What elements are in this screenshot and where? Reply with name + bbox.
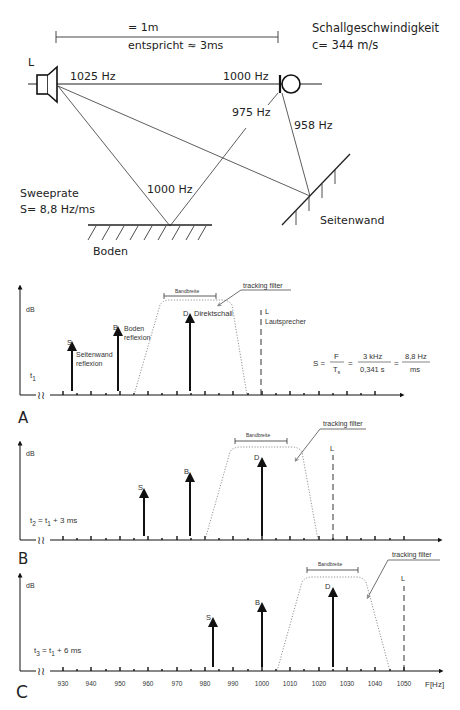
sweep-formula: S = F Ts = 3 kHz 0,341 s = 8,8 Hz ms [313,352,430,375]
svg-text:930: 930 [58,680,69,687]
svg-text:960: 960 [143,680,154,687]
svg-text:=: = [394,359,399,368]
speaker-label: L [28,56,35,69]
svg-text:Lautsprecher: Lautsprecher [265,318,307,326]
microphone-icon [280,75,300,93]
svg-text:950: 950 [115,680,126,687]
svg-text:Ts: Ts [333,365,341,375]
room-diagram: = 1m entspricht ≈ 3ms Schallgeschwindigk… [20,21,440,258]
bandwidth-label: Bandbreite [318,561,342,567]
filter-label: tracking filter [323,420,363,428]
panel-letter: C [16,682,28,702]
distance-sublabel: entspricht ≈ 3ms [128,39,224,52]
svg-text:970: 970 [172,680,183,687]
svg-text:S: S [67,338,72,347]
speed-title: Schallgeschwindigkeit [312,21,440,35]
svg-text:S: S [206,613,211,622]
svg-text:F: F [334,352,339,361]
svg-text:1020: 1020 [312,680,327,687]
speed-value: c= 344 m/s [312,38,378,52]
sweeprate-value: S= 8,8 Hz/ms [20,203,95,216]
y-axis-label: dB [26,450,35,457]
spectrum-panel-b: dB ≀≀ B t2 = t1 + 3 ms Bandbreite [18,420,440,568]
speaker-icon [37,67,57,102]
svg-text:8,8 Hz: 8,8 Hz [405,352,427,361]
y-axis-label: dB [26,582,35,589]
svg-text:ms: ms [410,365,420,374]
x-axis-ticks [63,667,404,671]
spectrum-panel-a: dB ≀≀ A t1 Bandbreite tracking fil [18,282,430,427]
svg-text:1000: 1000 [255,680,270,687]
svg-text:3 kHz: 3 kHz [363,352,382,361]
svg-text:reflexion: reflexion [124,334,151,341]
diagram-svg: = 1m entspricht ≈ 3ms Schallgeschwindigk… [0,0,460,710]
svg-text:D: D [254,453,260,462]
svg-text:reflexion: reflexion [76,360,103,367]
svg-text:B: B [113,323,118,332]
bandwidth-bracket [235,438,287,444]
bandwidth-bracket [307,567,358,573]
svg-text:940: 940 [86,680,97,687]
time-label: t2 = t1 + 3 ms [30,516,77,527]
floor-surface [88,225,212,240]
reflection-paths [58,86,310,226]
svg-text:D: D [325,582,331,591]
svg-text:990: 990 [228,680,239,687]
svg-text:1050: 1050 [397,680,412,687]
wall-label: Seitenwand [320,214,385,227]
svg-text:980: 980 [200,680,211,687]
y-axis-label: dB [26,306,35,313]
diagram-canvas: = 1m entspricht ≈ 3ms Schallgeschwindigk… [0,0,460,710]
floor-label: Boden [93,245,128,258]
freq-floor: 1000 Hz [147,183,193,196]
filter-label: tracking filter [392,551,432,559]
sweeprate-title: Sweeprate [20,187,79,200]
time-label: t1 [30,371,36,382]
bandwidth-label: Bandbreite [175,288,199,294]
axis-break-icon: ≀≀ [37,534,45,546]
panel-letter: B [18,550,28,568]
distance-label: = 1m [128,21,158,34]
svg-text:S =: S = [313,359,326,368]
svg-text:L: L [401,574,405,583]
x-axis-ticks [63,536,404,540]
freq-direct-mic: 1000 Hz [223,70,269,83]
svg-text:1010: 1010 [283,680,298,687]
svg-text:=: = [348,359,353,368]
panel-letter: A [18,409,29,427]
svg-text:B: B [184,467,189,476]
svg-text:0,341 s: 0,341 s [360,365,385,374]
svg-text:D: D [183,309,189,318]
axis-break-icon: ≀≀ [37,389,45,401]
filter-label: tracking filter [243,282,283,290]
svg-text:L: L [330,444,334,453]
svg-text:B: B [255,598,260,607]
svg-text:L: L [265,307,269,316]
svg-text:1030: 1030 [340,680,355,687]
distance-dimension: = 1m entspricht ≈ 3ms [56,21,278,52]
x-axis-unit: F[Hz] [425,680,444,689]
x-axis-tick-labels: 930 940 950 960 970 980 990 1000 1010 10… [58,680,412,687]
freq-floor-mic: 975 Hz [232,106,271,119]
svg-text:Boden: Boden [124,325,144,332]
svg-text:S: S [138,483,143,492]
time-label: t3 = t1 + 6 ms [34,646,81,657]
x-axis-ticks [63,391,375,395]
svg-text:Direktschall: Direktschall [194,309,233,318]
freq-wall-mic: 958 Hz [294,119,333,132]
freq-direct-speaker: 1025 Hz [70,70,116,83]
bandwidth-label: Bandbreite [246,432,270,438]
axis-break-icon: ≀≀ [37,665,45,677]
svg-text:Seitenwand: Seitenwand [76,351,113,358]
svg-text:1040: 1040 [368,680,383,687]
spectrum-panel-c: dB ≀≀ 930 940 950 960 970 980 990 [16,551,444,702]
